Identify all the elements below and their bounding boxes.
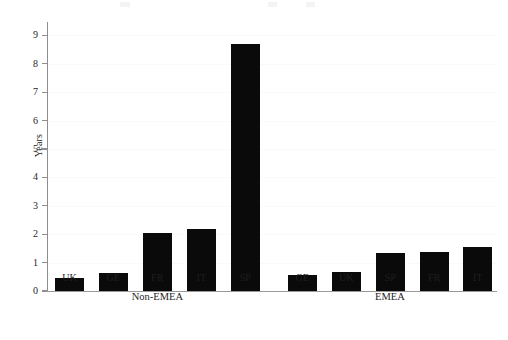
y-tick-mark bbox=[42, 148, 47, 149]
y-tick-mark bbox=[42, 205, 47, 206]
x-tick-label: IT bbox=[458, 272, 498, 283]
gridline bbox=[48, 206, 496, 207]
y-tick-label: 8 bbox=[21, 59, 38, 69]
x-tick-label: SP bbox=[225, 272, 265, 283]
y-tick-label: 1 bbox=[21, 258, 38, 268]
y-tick-label: 7 bbox=[21, 87, 38, 97]
group-label: EMEA bbox=[330, 291, 450, 302]
y-tick-mark bbox=[42, 177, 47, 178]
gridline bbox=[48, 149, 496, 150]
top-crop-artifacts bbox=[0, 0, 508, 14]
x-tick-label: GE bbox=[93, 272, 133, 283]
y-tick-mark bbox=[42, 92, 47, 93]
y-tick-label: 0 bbox=[21, 286, 38, 296]
y-tick-label: 2 bbox=[21, 229, 38, 239]
y-axis-line bbox=[47, 22, 48, 291]
x-tick-label: UK bbox=[49, 272, 89, 283]
gridline bbox=[48, 64, 496, 65]
y-tick-label: 5 bbox=[21, 144, 38, 154]
x-tick-label: UK bbox=[326, 272, 366, 283]
bar bbox=[463, 247, 492, 291]
gridline bbox=[48, 35, 496, 36]
x-tick-label: IT bbox=[181, 272, 221, 283]
y-tick-mark bbox=[42, 63, 47, 64]
y-tick-mark bbox=[42, 234, 47, 235]
gridline bbox=[48, 121, 496, 122]
plot-area: 0123456789 bbox=[47, 24, 496, 291]
y-tick-mark bbox=[42, 120, 47, 121]
y-tick-label: 6 bbox=[21, 116, 38, 126]
gridline bbox=[48, 234, 496, 235]
x-tick-label: FR bbox=[137, 272, 177, 283]
x-tick-label: GE bbox=[282, 272, 322, 283]
y-tick-label: 9 bbox=[21, 30, 38, 40]
y-tick-mark bbox=[42, 262, 47, 263]
y-tick-mark bbox=[42, 35, 47, 36]
gridline bbox=[48, 177, 496, 178]
group-label: Non-EMEA bbox=[97, 291, 217, 302]
gridline bbox=[48, 92, 496, 93]
bar-chart: Years 0123456789 UKGEFRITSPGEUKSPFRIT No… bbox=[0, 0, 508, 340]
x-tick-label: FR bbox=[414, 272, 454, 283]
bar bbox=[231, 44, 260, 291]
y-tick-label: 3 bbox=[21, 201, 38, 211]
x-tick-label: SP bbox=[370, 272, 410, 283]
y-tick-label: 4 bbox=[21, 172, 38, 182]
